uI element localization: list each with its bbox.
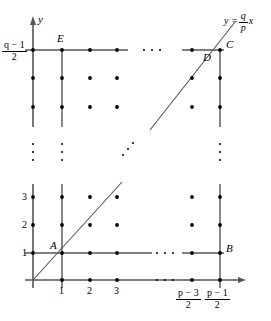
lattice-dot: [60, 76, 64, 80]
lattice-dot: [31, 195, 35, 199]
ellipsis-diagonal-middle: [122, 142, 138, 158]
lattice-dot: [115, 76, 119, 80]
figure-canvas: y q − 1 2 1 2 3 1 2 3 p − 3 2 p − 1 2 A …: [0, 0, 271, 321]
lattice-dot: [218, 76, 222, 80]
x-tick-label-1: 1: [59, 286, 64, 296]
line-yqpx-upper: [150, 22, 235, 130]
lattice-dot: [218, 105, 222, 109]
y-axis-label: y: [38, 14, 43, 25]
x-p3-denominator: 2: [176, 300, 201, 311]
y-tick-label-1: 1: [22, 248, 27, 258]
lattice-dot: [60, 195, 64, 199]
y-axis-arrowhead: [30, 16, 36, 25]
ellipsis-horizontal-xaxis: [156, 279, 174, 281]
lattice-dot: [190, 195, 194, 199]
lattice-dot: [88, 251, 92, 255]
x-tick-dot: [218, 278, 222, 282]
point-label-A: A: [50, 240, 57, 251]
lattice-dot: [31, 105, 35, 109]
lattice-dot: [190, 223, 194, 227]
lattice-dot: [88, 76, 92, 80]
x-p3-numerator: p − 3: [176, 288, 201, 300]
x-axis-arrowhead: [238, 277, 246, 283]
x-tick-dot: [88, 278, 92, 282]
x-tick-dot: [190, 278, 194, 282]
lattice-dot: [115, 251, 119, 255]
point-label-C: C: [226, 39, 233, 50]
point-label-B: B: [226, 243, 233, 254]
lattice-dot: [115, 48, 119, 52]
lattice-dot: [60, 223, 64, 227]
lattice-dot-E: [60, 48, 64, 52]
y-top-denominator: 2: [2, 52, 27, 63]
lattice-dot-B: [218, 251, 222, 255]
x-tick-label-p-minus-3-over-2: p − 3 2: [176, 288, 201, 310]
lattice-dot: [31, 223, 35, 227]
lattice-dot: [190, 48, 194, 52]
ellipsis-horizontal-y1: [156, 252, 174, 254]
x-tick-label-2: 2: [87, 286, 92, 296]
y-top-tick-label: q − 1 2: [2, 40, 27, 62]
line-equation: y = q p x: [224, 11, 253, 33]
lattice-dot: [115, 223, 119, 227]
y-top-numerator: q − 1: [2, 40, 27, 52]
lattice-dot: [88, 105, 92, 109]
lattice-dot: [88, 48, 92, 52]
lattice-dot: [190, 76, 194, 80]
lattice-dot: [31, 251, 35, 255]
line-yqpx-lower: [33, 182, 122, 280]
lattice-dot: [218, 223, 222, 227]
lattice-dot: [31, 76, 35, 80]
ellipsis-vertical-col1: [61, 143, 63, 161]
equation-denominator: p: [239, 23, 248, 34]
ellipsis-vertical-col0: [32, 143, 34, 161]
lattice-dot: [88, 223, 92, 227]
x-p1-numerator: p − 1: [205, 288, 230, 300]
point-label-D: D: [203, 52, 211, 63]
x-tick-dot: [115, 278, 119, 282]
y-tick-label-2: 2: [22, 220, 27, 230]
equation-numerator: q: [239, 11, 248, 23]
lattice-dot: [60, 105, 64, 109]
x-tick-label-3: 3: [114, 286, 119, 296]
lattice-dot: [115, 105, 119, 109]
y-tick-label-3: 3: [22, 192, 27, 202]
lattice-dot: [31, 48, 35, 52]
lattice-dot: [88, 195, 92, 199]
x-p1-denominator: 2: [205, 300, 230, 311]
lattice-dot: [60, 251, 64, 255]
equation-variable: x: [249, 15, 253, 26]
lattice-dot-C: [218, 48, 222, 52]
ellipsis-horizontal-top: [143, 49, 161, 51]
ellipsis-vertical-colp1: [219, 143, 221, 161]
equation-lhs: y =: [224, 15, 238, 26]
x-tick-dot: [60, 278, 64, 282]
lattice-dot: [115, 195, 119, 199]
lattice-dot: [218, 195, 222, 199]
lattice-dot: [190, 105, 194, 109]
x-tick-label-p-minus-1-over-2: p − 1 2: [205, 288, 230, 310]
lattice-dot: [190, 251, 194, 255]
point-label-E: E: [57, 33, 64, 44]
